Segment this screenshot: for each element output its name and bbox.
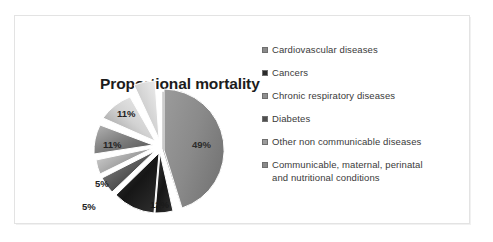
pie-label-cardiovascular: 49% bbox=[192, 139, 211, 150]
pie-label-diabetes: 5% bbox=[82, 201, 96, 212]
legend-label-line2: and nutritional conditions bbox=[272, 172, 423, 185]
legend-item-diabetes[interactable]: Diabetes bbox=[262, 113, 462, 126]
legend-item-communicable[interactable]: Communicable, maternal, perinataland nut… bbox=[262, 159, 462, 184]
legend-label: Other non communicable diseases bbox=[272, 136, 421, 149]
chart-legend: Cardiovascular diseases Cancers Chronic … bbox=[262, 44, 462, 195]
pie-chart-screenshot: Proportional mortality bbox=[0, 0, 493, 242]
legend-item-other-ncd[interactable]: Other non communicable diseases bbox=[262, 136, 462, 149]
pie-label-communicable: 11% bbox=[117, 108, 136, 119]
legend-item-cardiovascular[interactable]: Cardiovascular diseases bbox=[262, 44, 462, 57]
legend-label: Cardiovascular diseases bbox=[272, 44, 378, 57]
legend-label-line1: Communicable, maternal, perinatal bbox=[272, 159, 423, 170]
pie-label-chronic-respiratory: 5% bbox=[95, 178, 109, 189]
legend-label-multiline: Communicable, maternal, perinataland nut… bbox=[272, 159, 423, 184]
pie-label-other-ncd: 11% bbox=[103, 139, 122, 150]
pie-graphic bbox=[14, 15, 264, 224]
legend-label: Diabetes bbox=[272, 113, 310, 126]
chart-area: Proportional mortality bbox=[14, 15, 264, 224]
pie-label-cancers: 12% bbox=[150, 199, 169, 210]
